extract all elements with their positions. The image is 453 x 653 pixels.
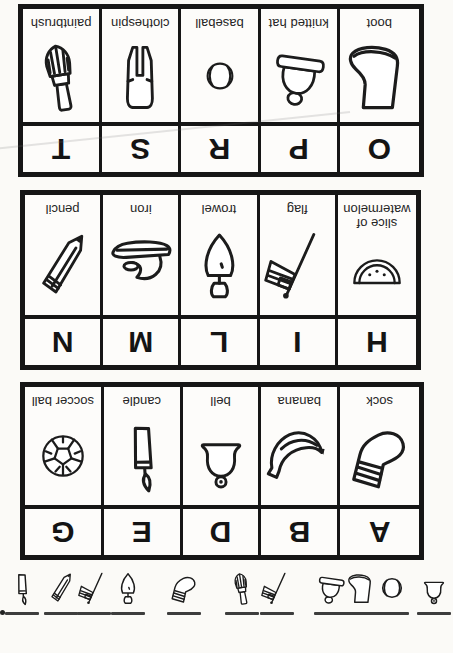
trowel-icon <box>181 227 256 303</box>
picture-caption: soccer ball <box>25 387 101 408</box>
strip-item <box>417 570 451 615</box>
letter-cell: M <box>103 319 181 365</box>
letter-cell: A <box>340 509 419 555</box>
strip-item <box>44 570 78 615</box>
flag-icon <box>260 227 335 303</box>
letter-cell: G <box>25 509 104 555</box>
letter-cell: I <box>260 319 338 365</box>
strip-item <box>375 570 409 615</box>
picture-caption: pencil <box>25 195 100 216</box>
picture-caption: baseball <box>181 9 257 30</box>
picture-cell: slice of watermelon <box>338 195 416 315</box>
letter-cell: L <box>181 319 259 365</box>
picture-caption: bell <box>183 387 259 408</box>
iron-icon <box>103 226 178 304</box>
picture-caption: trowel <box>181 195 256 216</box>
picture-caption: slice of watermelon <box>338 195 416 230</box>
picture-cell: candle <box>104 387 183 505</box>
picture-caption: candle <box>104 387 180 408</box>
pencil-icon <box>43 570 79 606</box>
strip-item <box>167 570 201 615</box>
letter-cell: B <box>261 509 340 555</box>
letter-cell: D <box>183 509 262 555</box>
picture-cell: flag <box>260 195 338 315</box>
knitted-hat-icon <box>311 568 352 609</box>
pictures-row: sock banana bell candle soccer ball <box>25 387 419 505</box>
letter-table-h-n: H I L M N slice of watermelon flag trowe… <box>20 190 421 370</box>
strip-item <box>5 570 39 615</box>
picture-caption: knitted hat <box>261 9 337 30</box>
answer-blank <box>77 612 111 615</box>
answer-blank <box>111 612 145 615</box>
picture-cell: paintbrush <box>23 9 102 122</box>
letters-row: O P R S T <box>23 122 419 172</box>
letter-cell: R <box>181 126 260 172</box>
soccer-ball-icon <box>33 426 93 486</box>
letter-cell: O <box>340 126 419 172</box>
picture-caption: banana <box>261 387 337 408</box>
picture-cell: baseball <box>181 9 260 122</box>
picture-cell: bell <box>183 387 262 505</box>
letter-cell: N <box>25 319 103 365</box>
answer-blank <box>314 612 348 615</box>
answer-strip <box>0 561 453 653</box>
letter-table-a-g: A B D E G sock banana bell candle <box>20 382 424 560</box>
answer-blank <box>167 612 201 615</box>
strip-item <box>260 570 294 615</box>
letter-cell: H <box>338 319 416 365</box>
picture-cell: knitted hat <box>261 9 340 122</box>
paintbrush-icon <box>17 28 105 123</box>
picture-cell: pencil <box>25 195 103 315</box>
pictures-row: boot knitted hat baseball clothespin pai… <box>23 9 419 122</box>
picture-cell: clothespin <box>102 9 181 122</box>
strip-item <box>225 570 259 615</box>
sock-icon <box>166 570 202 606</box>
watermelon-icon <box>342 244 412 302</box>
strip-item <box>77 570 111 615</box>
letter-cell: E <box>104 509 183 555</box>
boot-icon <box>340 34 419 118</box>
picture-caption: boot <box>340 9 419 30</box>
worksheet-page: A B D E G sock banana bell candle <box>0 0 453 653</box>
letters-row: A B D E G <box>25 505 419 555</box>
answer-blank <box>417 612 451 615</box>
sock-icon <box>340 416 419 496</box>
picture-caption: clothespin <box>102 9 178 30</box>
answer-blank <box>375 612 409 615</box>
trowel-icon <box>110 570 146 606</box>
banana-icon <box>261 418 337 494</box>
candle-icon <box>98 413 185 500</box>
knitted-hat-icon <box>260 37 337 114</box>
answer-blank <box>345 612 379 615</box>
answer-blank <box>44 612 78 615</box>
picture-cell: boot <box>340 9 419 122</box>
letter-cell: P <box>261 126 340 172</box>
clothespin-icon <box>102 36 178 116</box>
picture-cell: banana <box>261 387 340 505</box>
picture-cell: trowel <box>181 195 259 315</box>
letter-cell: T <box>23 126 102 172</box>
ink-dot <box>0 610 5 615</box>
candle-icon <box>1 567 42 608</box>
bell-icon <box>416 570 452 606</box>
picture-caption: flag <box>260 195 335 216</box>
flag-icon <box>259 570 295 606</box>
answer-blank <box>5 612 39 615</box>
picture-cell: soccer ball <box>25 387 104 505</box>
answer-blank <box>225 612 259 615</box>
letters-row: H I L M N <box>25 315 416 365</box>
paintbrush-icon <box>221 567 262 608</box>
picture-caption: paintbrush <box>23 9 99 30</box>
picture-cell: iron <box>103 195 181 315</box>
answer-blank <box>260 612 294 615</box>
picture-caption: sock <box>340 387 419 408</box>
pencil-icon <box>25 226 100 304</box>
letter-table-o-t: O P R S T boot knitted hat baseball clot… <box>18 4 424 177</box>
bell-icon <box>185 420 257 492</box>
flag-icon <box>76 570 112 606</box>
picture-caption: iron <box>103 195 178 216</box>
picture-cell: sock <box>340 387 419 505</box>
pictures-row: slice of watermelon flag trowel iron pen… <box>25 195 416 315</box>
baseball-icon <box>196 52 244 100</box>
strip-item <box>111 570 145 615</box>
